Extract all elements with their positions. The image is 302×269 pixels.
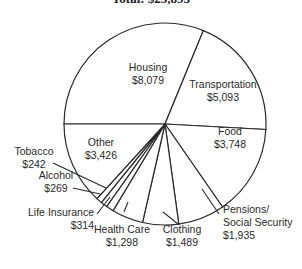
slice-label: Clothing$1,489 (163, 223, 202, 248)
slice-label: Life Insurance$314 (28, 206, 94, 231)
slice-label: Alcohol$269 (39, 169, 73, 194)
slice-label: Food$3,748 (214, 125, 246, 150)
slice-label: Housing$8,079 (129, 61, 168, 86)
slice-label: Tobacco$242 (14, 145, 53, 170)
slice-label: Other$3,426 (85, 136, 117, 161)
slice-label: Health Care$1,298 (94, 223, 150, 248)
slice-label: Pensions/Social Security$1,935 (223, 203, 293, 241)
pie-chart: Housing$8,079Transportation$5,093Food$3,… (0, 0, 302, 269)
